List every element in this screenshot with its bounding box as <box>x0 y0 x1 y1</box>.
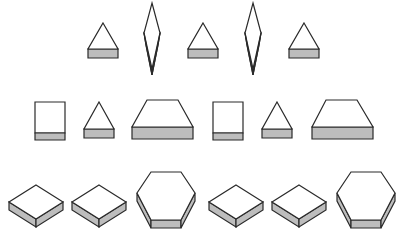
bottom-side <box>151 220 181 228</box>
trapezoid-face <box>132 100 193 127</box>
row-3-hex-prism-3 <box>137 172 195 228</box>
rect-face <box>213 102 243 133</box>
diamond-face <box>245 3 261 69</box>
row-1-triangle-prism-1 <box>88 23 118 58</box>
base-slab <box>312 127 373 139</box>
row-2-rect-prism-1 <box>35 102 65 140</box>
row-2-triangle-prism-2 <box>84 102 114 138</box>
row-1-triangle-prism-3 <box>188 23 218 58</box>
base-slab <box>88 49 118 58</box>
rect-slab <box>35 133 65 140</box>
bottom-side <box>351 220 381 228</box>
triangle-face <box>84 102 114 129</box>
row-3-iso-box-2 <box>72 185 126 227</box>
row-2-trapezoid-prism-6 <box>312 100 373 139</box>
triangle-face <box>188 23 218 49</box>
row-2-trapezoid-prism-3 <box>132 100 193 139</box>
row-1-diamond-prism-2 <box>144 3 160 75</box>
rect-slab <box>213 133 243 140</box>
triangle-face <box>88 23 118 49</box>
row-3-iso-box-5 <box>272 185 326 227</box>
row-1-triangle-prism-5 <box>289 23 319 58</box>
triangle-face <box>289 23 319 49</box>
row-2-rect-prism-4 <box>213 102 243 140</box>
base-slab <box>188 49 218 58</box>
triangle-face <box>262 102 292 129</box>
shapes-diagram <box>0 0 401 238</box>
base-slab <box>262 129 292 138</box>
row-2-triangle-prism-5 <box>262 102 292 138</box>
row-3-hex-prism-6 <box>337 172 395 228</box>
rect-face <box>35 102 65 133</box>
diamond-face <box>144 3 160 69</box>
base-slab <box>289 49 319 58</box>
trapezoid-face <box>312 100 373 127</box>
row-3-iso-box-4 <box>209 185 263 227</box>
shapes-svg <box>0 0 401 238</box>
base-slab <box>84 129 114 138</box>
base-slab <box>132 127 193 139</box>
row-1-diamond-prism-4 <box>245 3 261 75</box>
row-3-iso-box-1 <box>9 185 63 227</box>
